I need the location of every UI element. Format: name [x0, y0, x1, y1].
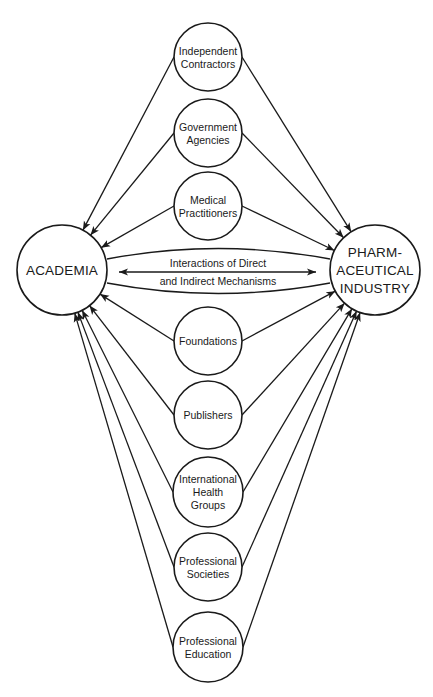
edge-government-agencies-to-pharma: [242, 133, 344, 238]
node-publishers: Publishers: [174, 381, 242, 449]
mechanisms-label-line-1: Interactions of Direct: [170, 257, 266, 269]
foundations-label-line-1: Foundations: [179, 335, 237, 347]
edge-medical-practitioners-to-pharma: [242, 206, 334, 250]
edge-independent-contractors-to-academia: [83, 57, 174, 230]
pharma-label-line-2: ACEUTICAL: [336, 263, 414, 278]
nodes-layer: IndependentContractorsGovernmentAgencies…: [173, 23, 243, 682]
medical-practitioners-label-line-2: Practitioners: [179, 207, 237, 219]
node-government-agencies: GovernmentAgencies: [174, 99, 242, 167]
edge-professional-societies-to-pharma: [242, 311, 357, 567]
edge-independent-contractors-to-pharma: [242, 57, 351, 232]
government-agencies-label-line-2: Agencies: [186, 134, 229, 146]
international-health-groups-label-line-2: Health: [193, 486, 224, 498]
medical-practitioners-label-line-1: Medical: [190, 194, 226, 206]
international-health-groups-label-line-3: Groups: [191, 499, 225, 511]
pharma-label-line-1: PHARM-: [348, 245, 402, 260]
independent-contractors-label-line-1: Independent: [179, 45, 237, 57]
mechanisms-link: Interactions of Direct and Indirect Mech…: [107, 249, 330, 294]
hub-academia: ACADEMIA: [17, 225, 107, 315]
node-professional-education: ProfessionalEducation: [173, 612, 243, 682]
edge-foundations-to-pharma: [242, 291, 335, 341]
node-independent-contractors: IndependentContractors: [174, 23, 242, 91]
node-medical-practitioners: MedicalPractitioners: [174, 172, 242, 240]
publishers-label-line-1: Publishers: [183, 409, 232, 421]
node-foundations: Foundations: [174, 307, 242, 375]
edge-international-health-groups-to-pharma: [243, 309, 352, 492]
professional-societies-label-line-2: Societies: [187, 568, 230, 580]
edge-professional-education-to-academia: [75, 313, 173, 647]
edge-government-agencies-to-academia: [90, 133, 174, 235]
hub-pharmaceutical-industry: PHARM- ACEUTICAL INDUSTRY: [330, 225, 420, 315]
professional-education-label-line-2: Education: [185, 648, 232, 660]
professional-societies-label-line-1: Professional: [179, 555, 237, 567]
mechanisms-label-line-2: and Indirect Mechanisms: [160, 275, 277, 287]
international-health-groups-label-line-1: International: [179, 473, 237, 485]
node-international-health-groups: InternationalHealthGroups: [173, 457, 243, 527]
pharma-label-line-3: INDUSTRY: [340, 281, 410, 296]
edge-publishers-to-academia: [90, 306, 174, 415]
edge-professional-societies-to-academia: [78, 312, 174, 567]
edge-international-health-groups-to-academia: [82, 310, 173, 492]
edge-professional-education-to-pharma: [243, 312, 360, 647]
independent-contractors-label-line-2: Contractors: [181, 58, 235, 70]
academia-label: ACADEMIA: [26, 263, 98, 278]
node-professional-societies: ProfessionalSocieties: [174, 533, 242, 601]
stakeholder-diagram: Interactions of Direct and Indirect Mech…: [0, 0, 433, 697]
edge-medical-practitioners-to-academia: [101, 206, 174, 248]
edge-publishers-to-pharma: [242, 303, 345, 415]
professional-education-label-line-1: Professional: [179, 635, 237, 647]
government-agencies-label-line-1: Government: [179, 121, 237, 133]
